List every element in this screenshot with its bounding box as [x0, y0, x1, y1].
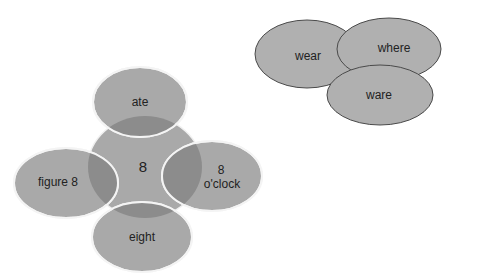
- oval-where-label: where: [377, 41, 411, 55]
- petal-bottom-label: eight: [129, 230, 156, 244]
- petal-right-label-line2: o'clock: [204, 177, 241, 191]
- petal-right-label-line1: 8: [218, 163, 225, 177]
- center-label: 8: [139, 158, 147, 175]
- petal-top-label: ate: [132, 95, 149, 109]
- oval-ware-label: ware: [365, 88, 392, 102]
- petal-left-label: figure 8: [38, 175, 78, 189]
- oval-wear-label: wear: [294, 49, 321, 63]
- diagram-canvas: 8 ate figure 8 8 o'clock eight wear wher…: [0, 0, 480, 280]
